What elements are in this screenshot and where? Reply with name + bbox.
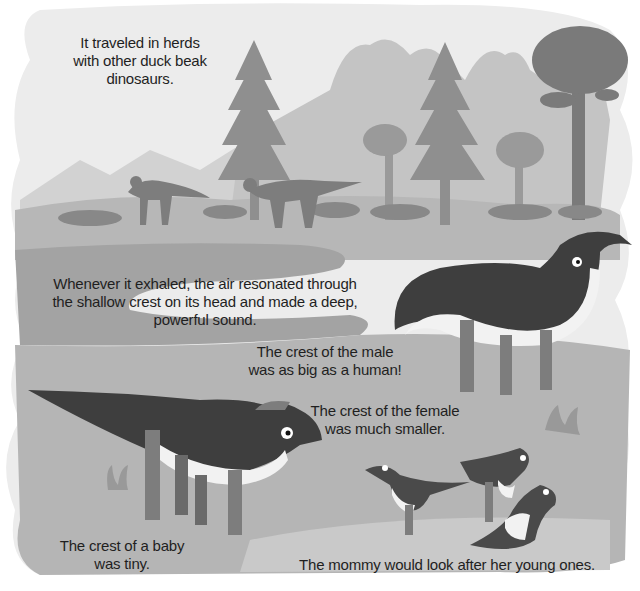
caption-herds: It traveled in herds with other duck bea… [60, 34, 220, 88]
caption-male: The crest of the male was as big as a hu… [240, 343, 410, 379]
caption-mommy: The mommy would look after her young one… [262, 556, 632, 574]
caption-sound: Whenever it exhaled, the air resonated t… [20, 275, 390, 329]
caption-female: The crest of the female was much smaller… [300, 402, 470, 438]
book-page: It traveled in herds with other duck bea… [0, 0, 640, 591]
caption-baby: The crest of a baby was tiny. [52, 537, 192, 573]
